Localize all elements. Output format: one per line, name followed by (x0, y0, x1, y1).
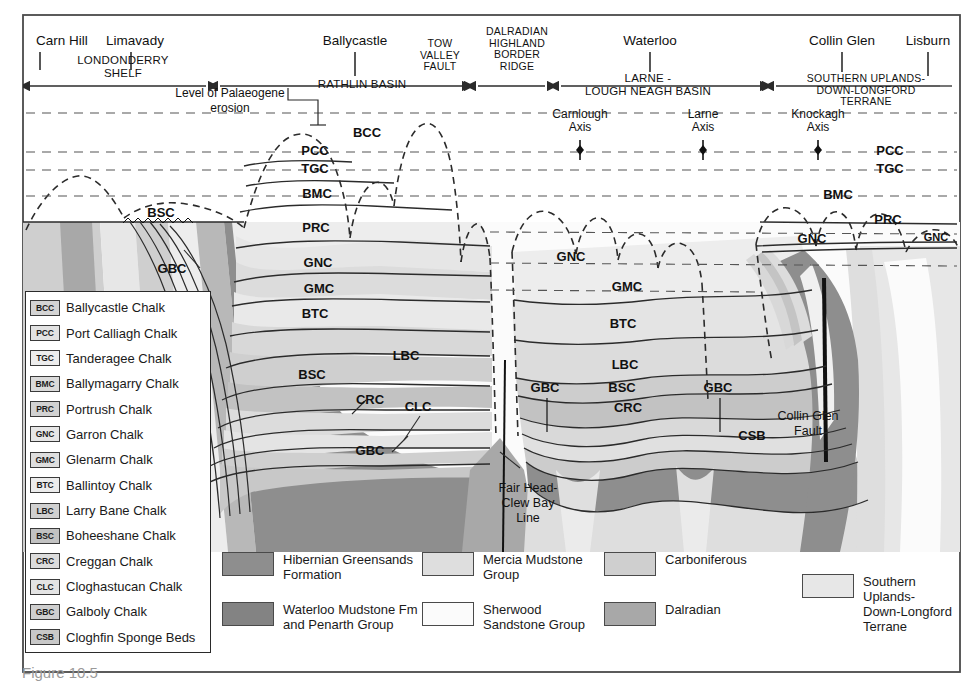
rock-unit-legend: Hibernian Greensands FormationWaterloo M… (222, 550, 960, 654)
rock-swatch (604, 602, 656, 626)
unit-code-lbc: LBC (612, 357, 639, 372)
unit-code-gbc: GBC (531, 380, 561, 395)
strat-legend-name: Tanderagee Chalk (66, 351, 172, 366)
unit-code-crc: CRC (356, 392, 385, 407)
rock-legend-name: Southern Uplands- Down-Longford Terrane (863, 574, 960, 634)
unit-code-lbc: LBC (393, 348, 420, 363)
unit-code-btc: BTC (302, 306, 329, 321)
strat-swatch-lbc: LBC (30, 503, 60, 519)
geological-cross-section-figure: Carn HillLimavadyBallycastleWaterlooColl… (0, 0, 980, 688)
unit-code-prc: PRC (874, 212, 902, 227)
strat-legend-name: Galboly Chalk (66, 604, 147, 619)
unit-code-gnc: GNC (798, 231, 828, 246)
unit-code-gbc: GBC (356, 443, 386, 458)
unit-code-tgc: TGC (876, 161, 904, 176)
strat-swatch-pcc: PCC (30, 325, 60, 341)
strat-swatch-bcc: BCC (30, 300, 60, 316)
rock-legend-name: Hibernian Greensands Formation (283, 552, 413, 582)
strat-legend-name: Ballintoy Chalk (66, 478, 152, 493)
strat-legend-row: BCCBallycastle Chalk (30, 295, 208, 320)
strat-legend-row: BTCBallintoy Chalk (30, 473, 208, 498)
rock-legend-item: Sherwood Sandstone Group (422, 602, 585, 632)
unit-code-crc: CRC (614, 400, 643, 415)
fold-axis-label: LarneAxis (688, 107, 719, 134)
strat-legend-row: PCCPort Calliagh Chalk (30, 320, 208, 345)
strat-legend-row: TGCTanderagee Chalk (30, 346, 208, 371)
strat-legend-row: GMCGlenarm Chalk (30, 447, 208, 472)
rock-legend-name: Carboniferous (665, 552, 747, 567)
place-label-carn-hill: Carn Hill (36, 33, 88, 48)
unit-code-gnc: GNC (304, 255, 334, 270)
place-label-ballycastle: Ballycastle (323, 33, 388, 48)
strat-legend-row: LBCLarry Bane Chalk (30, 498, 208, 523)
unit-code-gmc: GMC (304, 281, 335, 296)
unit-code-bcc: BCC (353, 125, 382, 140)
unit-code-csb: CSB (738, 428, 765, 443)
rock-swatch (422, 602, 474, 626)
place-label-limavady: Limavady (106, 33, 164, 48)
unit-code-bsc: BSC (298, 367, 326, 382)
unit-code-pcc: PCC (876, 143, 904, 158)
strat-swatch-btc: BTC (30, 477, 60, 493)
unit-code-gnc: GNC (557, 249, 587, 264)
unit-code-prc: PRC (302, 220, 330, 235)
rock-swatch (802, 574, 854, 598)
rock-legend-item: Carboniferous (604, 552, 747, 576)
rock-legend-item: Dalradian (604, 602, 721, 626)
strat-swatch-bmc: BMC (30, 376, 60, 392)
strat-legend-name: Ballymagarry Chalk (66, 376, 179, 391)
stratigraphic-legend: BCCBallycastle ChalkPCCPort Calliagh Cha… (25, 291, 211, 653)
rock-legend-item: Mercia Mudstone Group (422, 552, 583, 582)
rock-legend-item: Southern Uplands- Down-Longford Terrane (802, 574, 960, 634)
rock-legend-name: Dalradian (665, 602, 721, 617)
rock-legend-name: Sherwood Sandstone Group (483, 602, 585, 632)
strat-legend-name: Cloghastucan Chalk (66, 579, 182, 594)
strat-swatch-crc: CRC (30, 553, 60, 569)
strat-swatch-prc: PRC (30, 401, 60, 417)
rock-swatch (604, 552, 656, 576)
region-label: RATHLIN BASIN (318, 78, 407, 90)
rock-swatch (222, 552, 274, 576)
rock-legend-item: Waterloo Mudstone Fm and Penarth Group (222, 602, 418, 632)
strat-legend-row: BSCBoheeshane Chalk (30, 523, 208, 548)
strat-legend-name: Port Calliagh Chalk (66, 326, 177, 341)
unit-code-pcc: PCC (301, 143, 329, 158)
unit-code-gbc: GBC (158, 261, 188, 276)
strat-legend-row: PRCPortrush Chalk (30, 396, 208, 421)
strat-legend-row: BMCBallymagarry Chalk (30, 371, 208, 396)
unit-code-bsc: BSC (608, 380, 636, 395)
unit-code-bsc: BSC (147, 205, 175, 220)
unit-code-bmc: BMC (302, 186, 332, 201)
strat-swatch-tgc: TGC (30, 350, 60, 366)
strat-legend-name: Ballycastle Chalk (66, 300, 165, 315)
strat-legend-name: Cloghfin Sponge Beds (66, 630, 195, 645)
rock-swatch (222, 602, 274, 626)
place-label-lisburn: Lisburn (906, 33, 950, 48)
strat-legend-row: CSBCloghfin Sponge Beds (30, 625, 208, 650)
place-label-collin-glen: Collin Glen (809, 33, 875, 48)
rock-legend-name: Waterloo Mudstone Fm and Penarth Group (283, 602, 418, 632)
strat-legend-name: Creggan Chalk (66, 554, 153, 569)
rock-legend-name: Mercia Mudstone Group (483, 552, 583, 582)
strat-legend-row: GBCGalboly Chalk (30, 599, 208, 624)
strat-swatch-gnc: GNC (30, 426, 60, 442)
strat-legend-row: CLCCloghastucan Chalk (30, 574, 208, 599)
unit-code-clc: CLC (405, 399, 432, 414)
rock-legend-item: Hibernian Greensands Formation (222, 552, 413, 582)
strat-swatch-clc: CLC (30, 579, 60, 595)
place-label-waterloo: Waterloo (623, 33, 677, 48)
unit-code-gnc: GNC (924, 231, 949, 243)
unit-code-gbc: GBC (704, 380, 734, 395)
strat-legend-row: CRCCreggan Chalk (30, 549, 208, 574)
rock-swatch (422, 552, 474, 576)
unit-code-btc: BTC (610, 316, 637, 331)
strat-legend-name: Boheeshane Chalk (66, 528, 176, 543)
figure-caption: Figure 10.5 (22, 664, 98, 681)
strat-legend-name: Glenarm Chalk (66, 452, 153, 467)
strat-swatch-csb: CSB (30, 629, 60, 645)
unit-code-tgc: TGC (301, 161, 329, 176)
strat-swatch-gmc: GMC (30, 452, 60, 468)
strat-legend-name: Larry Bane Chalk (66, 503, 166, 518)
unit-code-gmc: GMC (612, 279, 643, 294)
strat-legend-row: GNCGarron Chalk (30, 422, 208, 447)
